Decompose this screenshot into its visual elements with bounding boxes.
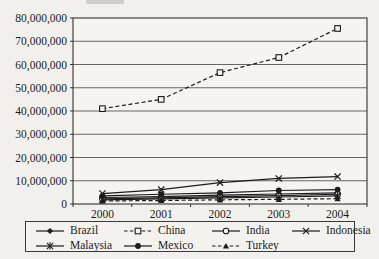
y-tick-label: 0 — [61, 198, 67, 210]
x-tick-label: 2002 — [209, 208, 232, 220]
y-tick-label: 30,000,000 — [15, 128, 67, 141]
legend-item-brazil: Brazil — [26, 225, 114, 237]
legend-item-india: India — [202, 225, 282, 237]
y-axis-labels: 010,000,00020,000,00030,000,00040,000,00… — [15, 12, 73, 210]
triangle-filled-icon — [211, 241, 241, 251]
x-axis-labels: 20002001200220032004 — [73, 204, 367, 220]
y-tick-label: 70,000,000 — [15, 35, 67, 48]
legend-item-indonesia: Indonesia — [282, 225, 356, 237]
x-tick-label: 2003 — [267, 208, 290, 220]
legend-label: Malaysia — [70, 240, 112, 252]
y-tick-label: 80,000,000 — [15, 12, 67, 25]
square-open-icon — [123, 226, 153, 236]
x-tick-label: 2004 — [326, 208, 349, 220]
asterisk-icon — [35, 241, 65, 251]
legend-item-malaysia: Malaysia — [26, 240, 114, 252]
circle-filled-icon — [123, 241, 153, 251]
legend-item-mexico: Mexico — [114, 240, 202, 252]
x-tick-label: 2000 — [91, 208, 114, 220]
y-tick-label: 60,000,000 — [15, 59, 67, 72]
x-icon — [291, 226, 321, 236]
legend-label: India — [246, 225, 270, 237]
x-tick-label: 2001 — [150, 208, 173, 220]
y-tick-label: 40,000,000 — [15, 105, 67, 118]
legend-label: Indonesia — [326, 225, 371, 237]
line-chart-figure: 010,000,00020,000,00030,000,00040,000,00… — [0, 0, 379, 259]
circle-open-icon — [211, 226, 241, 236]
legend-item-china: China — [114, 225, 202, 237]
y-tick-label: 50,000,000 — [15, 82, 67, 95]
legend-item-turkey: Turkey — [202, 240, 282, 252]
diamond-filled-icon — [35, 226, 65, 236]
chart-legend: BrazilChinaIndiaIndonesiaMalaysiaMexicoT… — [25, 221, 355, 252]
legend-label: China — [158, 225, 185, 237]
line-chart-svg: 010,000,00020,000,00030,000,00040,000,00… — [0, 0, 379, 220]
y-tick-label: 20,000,000 — [15, 152, 67, 165]
legend-label: Mexico — [158, 240, 193, 252]
y-tick-label: 10,000,000 — [15, 175, 67, 188]
legend-label: Brazil — [70, 225, 98, 237]
legend-label: Turkey — [246, 240, 279, 252]
